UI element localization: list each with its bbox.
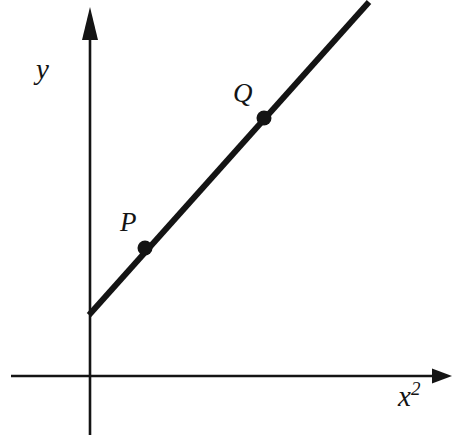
data-line [89,2,369,315]
graph-figure: y x2 P Q [0,0,466,435]
plot-canvas [0,0,466,435]
x-axis-label-base: x [398,380,411,412]
data-point-label-p: P [120,209,137,236]
x-axis-label: x2 [398,382,420,411]
data-point-q[interactable] [257,111,272,126]
data-point-label-q: Q [233,80,253,107]
y-axis-label: y [36,55,49,84]
data-point-p[interactable] [138,241,153,256]
x-axis-label-exponent: 2 [411,378,421,399]
y-axis-arrow-icon [82,7,98,40]
x-axis-arrow-icon [432,369,452,384]
